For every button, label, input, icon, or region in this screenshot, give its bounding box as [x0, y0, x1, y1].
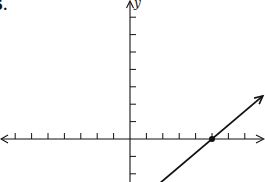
plot-area — [0, 0, 265, 182]
intercept-point — [209, 136, 215, 142]
coordinate-graph: 5. y — [0, 0, 265, 182]
